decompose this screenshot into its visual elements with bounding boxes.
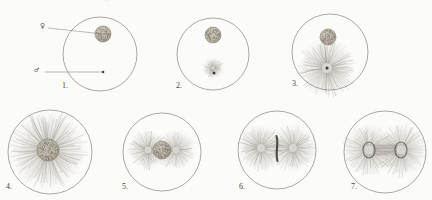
figure-5 xyxy=(123,113,201,191)
figure-5-chromatin-mass xyxy=(153,141,171,159)
figure-6-chromosome-plate xyxy=(277,136,278,161)
plate-canvas xyxy=(0,0,432,200)
figure-6 xyxy=(237,111,317,189)
generated-figures xyxy=(8,14,428,194)
figure-3-female-pronucleus xyxy=(320,29,336,45)
figure-4 xyxy=(8,110,92,194)
figure-3-sperm-nucleus-dot xyxy=(326,67,329,70)
figure-2-female-pronucleus xyxy=(205,27,221,43)
figure-number-5: 5. xyxy=(122,183,128,191)
figure-7 xyxy=(342,111,428,193)
figure-number-1: 1. xyxy=(62,82,68,90)
mars-symbol: ♂ xyxy=(34,67,39,73)
figure-number-2: 2. xyxy=(176,82,182,90)
figure-number-6: 6. xyxy=(239,183,245,191)
figure-2-sperm-nucleus-dot xyxy=(213,72,216,75)
venus-symbol: ♀ xyxy=(40,23,45,30)
figure-4-nucleus xyxy=(37,139,59,161)
figure-2-sperm-aster xyxy=(202,58,223,79)
figure-2 xyxy=(177,18,249,90)
figure-number-4: 4. xyxy=(6,183,12,191)
figure-number-7: 7. xyxy=(351,183,357,191)
illustration-plate: oo · · ♀ ♂ 1. 2. 3. 4. 5. 6. 7. xyxy=(0,0,432,200)
figure-3 xyxy=(292,14,368,98)
figure-1 xyxy=(63,17,137,91)
figure-number-3: 3. xyxy=(292,80,298,88)
female-leader-line xyxy=(48,28,103,34)
